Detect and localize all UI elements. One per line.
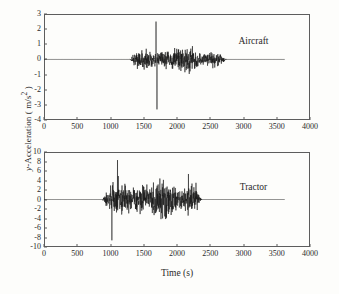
y-tick-label: 2 xyxy=(37,186,41,194)
y-tick-label: 0 xyxy=(37,55,41,63)
x-tick-label: 2500 xyxy=(202,250,218,258)
y-axis-title-text: -Acceleration ( m/s xyxy=(23,95,33,166)
x-tick-label: 2000 xyxy=(169,123,185,131)
figure-canvas: y-Acceleration ( m/s2 ) 3210-1-2-3-40500… xyxy=(0,0,339,294)
y-tick-label: 1 xyxy=(37,40,41,48)
x-tick-label: 1500 xyxy=(136,250,152,258)
series-label-tractor: Tractor xyxy=(240,182,268,192)
x-tick-label: 4000 xyxy=(302,250,318,258)
y-tick-label: 2 xyxy=(37,25,41,33)
x-axis-title: Time (s) xyxy=(44,268,310,278)
y-tick-label: 3 xyxy=(37,10,41,18)
x-tick-label: 2000 xyxy=(169,250,185,258)
x-tick-label: 500 xyxy=(71,250,83,258)
y-tick-label: -6 xyxy=(34,224,41,232)
x-tick-label: 1500 xyxy=(136,123,152,131)
signal-trace-tractor xyxy=(44,152,310,247)
x-tick-label: 500 xyxy=(71,123,83,131)
y-tick-label: -3 xyxy=(34,101,41,109)
y-tick-label: 4 xyxy=(37,177,41,185)
x-tick-label: 2500 xyxy=(202,123,218,131)
x-tick-label: 3500 xyxy=(269,123,285,131)
y-axis-title: y-Acceleration ( m/s2 ) xyxy=(20,39,33,219)
y-tick-label: -2 xyxy=(34,205,41,213)
x-tick-label: 0 xyxy=(42,123,46,131)
y-tick-label: -4 xyxy=(34,215,41,223)
y-tick-label: 6 xyxy=(37,167,41,175)
x-tick-label: 3000 xyxy=(236,123,252,131)
y-tick-label: 8 xyxy=(37,158,41,166)
x-tick-label: 3500 xyxy=(269,250,285,258)
y-axis-title-variable: y xyxy=(23,167,33,171)
x-tick-label: 4000 xyxy=(302,123,318,131)
x-tick-label: 0 xyxy=(42,250,46,258)
series-label-aircraft: Aircraft xyxy=(238,36,268,46)
y-tick-label: 10 xyxy=(33,148,41,156)
y-tick-label: -2 xyxy=(34,86,41,94)
x-tick-label: 1000 xyxy=(103,123,119,131)
signal-trace-aircraft xyxy=(44,14,310,120)
y-tick-label: -8 xyxy=(34,234,41,242)
y-tick-label: 0 xyxy=(37,196,41,204)
y-axis-title-close: ) xyxy=(23,86,33,91)
panel-aircraft: 3210-1-2-3-40500100015002000250030003500… xyxy=(44,14,310,120)
panel-tractor: 1086420-2-4-6-8-100500100015002000250030… xyxy=(44,152,310,247)
x-tick-label: 1000 xyxy=(103,250,119,258)
y-tick-label: -1 xyxy=(34,71,41,79)
y-axis-title-exponent: 2 xyxy=(20,92,29,96)
x-tick-label: 3000 xyxy=(236,250,252,258)
y-tick-label: -10 xyxy=(30,243,41,251)
y-tick-label: -4 xyxy=(34,116,41,124)
